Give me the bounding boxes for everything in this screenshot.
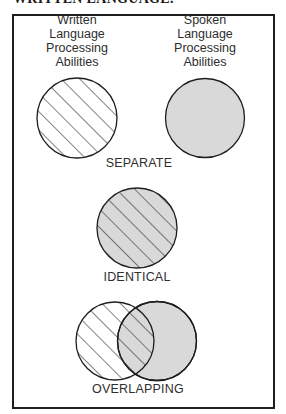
spoken-abilities-label: Spoken Language Processing Abilities <box>150 13 260 69</box>
spoken-abilities-circle-separate <box>166 79 245 158</box>
overlapping-circles <box>70 295 197 390</box>
identical-circle <box>97 188 177 268</box>
caption-identical: IDENTICAL <box>67 270 207 284</box>
written-abilities-circle-separate <box>37 78 117 158</box>
caption-separate: SEPARATE <box>69 156 209 170</box>
written-abilities-label: Written Language Processing Abilities <box>22 13 132 69</box>
caption-overlapping: OVERLAPPING <box>68 382 208 396</box>
